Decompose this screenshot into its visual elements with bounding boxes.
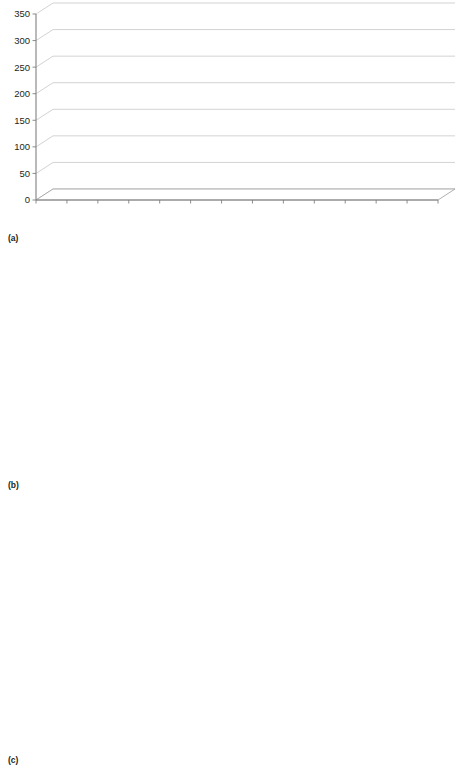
y-tick-label: 350 [14,8,30,19]
y-tick-label: 50 [19,168,30,179]
gridline [36,136,455,147]
panel-a: 050100150200250300350 (a) [0,0,462,248]
gridline [36,162,455,173]
gridline [36,83,455,94]
panel-b-label: (b) [8,480,19,490]
gridline [36,3,455,14]
y-tick-label: 0 [25,194,30,205]
figure-three-panel-bar-charts: 050100150200250300350 (a) (b) (c) [0,0,462,770]
y-tick-label: 200 [14,88,30,99]
y-tick-label: 100 [14,141,30,152]
y-tick-label: 250 [14,62,30,73]
gridline [36,109,455,120]
y-tick-label: 300 [14,35,30,46]
panel-c: (c) [0,497,462,770]
panel-a-label: (a) [8,233,18,243]
gridline [36,56,455,67]
gridline [36,30,455,41]
chart-a-canvas: 050100150200250300350 [0,0,462,230]
y-tick-label: 150 [14,115,30,126]
chart-c-canvas [0,497,462,752]
chart-b-canvas [0,250,462,478]
panel-c-label: (c) [8,755,18,765]
panel-b: (b) [0,250,462,495]
chart-floor [36,189,455,200]
